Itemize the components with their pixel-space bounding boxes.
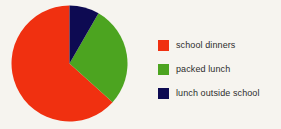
pie-chart-graphic [11, 5, 128, 122]
pie-svg [11, 5, 128, 122]
legend-swatch-icon-packed-lunch [158, 64, 169, 75]
legend-swatch-icon-lunch-outside-school [158, 88, 169, 99]
legend-item-packed-lunch: packed lunch [158, 57, 278, 81]
legend-item-school-dinners: school dinners [158, 33, 278, 57]
legend-swatch-icon-school-dinners [158, 40, 169, 51]
pie-chart-figure: school dinners packed lunch lunch outsid… [0, 0, 281, 129]
legend-item-lunch-outside-school: lunch outside school [158, 81, 278, 105]
legend-label-lunch-outside-school: lunch outside school [176, 88, 260, 99]
chart-legend: school dinners packed lunch lunch outsid… [158, 33, 278, 105]
pie-slices [11, 6, 127, 122]
legend-label-packed-lunch: packed lunch [176, 64, 230, 75]
legend-label-school-dinners: school dinners [176, 40, 235, 51]
